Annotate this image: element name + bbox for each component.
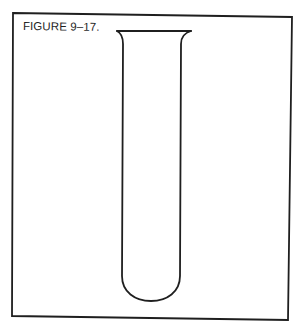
- figure-drawing: [0, 0, 299, 327]
- test-tube-icon: [117, 31, 191, 301]
- figure-label: FIGURE 9–17.: [23, 20, 100, 33]
- figure-canvas: FIGURE 9–17.: [0, 0, 299, 327]
- test-tube-body: [117, 31, 191, 301]
- figure-frame: [12, 13, 292, 320]
